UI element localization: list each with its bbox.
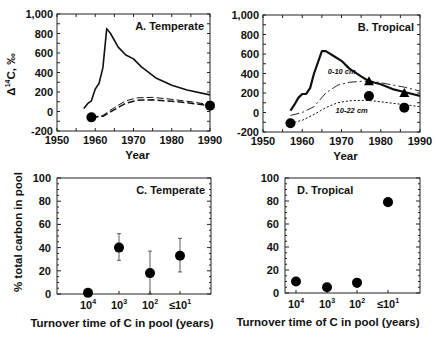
data-point: [114, 243, 124, 253]
x-tick-label: 104: [80, 298, 96, 311]
x-tick-label: 1960: [83, 134, 107, 146]
data-point: [352, 278, 362, 288]
x-tick-label: 1970: [329, 135, 353, 147]
data-point: [145, 268, 155, 278]
y-axis-title: % total carbon in pool: [12, 172, 24, 292]
y-tick-label: -200: [31, 125, 53, 137]
panel-title: A. Temperate: [135, 20, 204, 32]
data-point: [175, 251, 185, 261]
data-point: [83, 288, 93, 298]
x-tick-label: 1990: [198, 134, 222, 146]
data-point: [364, 91, 374, 101]
y-tick-label: 600: [241, 48, 259, 60]
y-tick-label: 40: [267, 241, 279, 253]
x-axis-title: Year: [333, 150, 358, 162]
x-tick-label: ≤101: [377, 297, 399, 310]
series-line: [84, 29, 210, 109]
panel-b: 195019601970198019901,0008006004002000-2…: [231, 9, 432, 162]
y-tick-label: 80: [39, 195, 51, 207]
data-point-triangle: [364, 76, 374, 85]
y-tick-label: 60: [39, 218, 51, 230]
panel-title: D. Tropical: [297, 184, 353, 196]
y-tick-label: 0: [47, 106, 53, 118]
y-tick-label: 60: [267, 218, 279, 230]
data-point: [285, 118, 295, 128]
y-tick-label: 800: [35, 28, 53, 40]
panel-d: 100806040200104103102≤101Turnover time o…: [236, 172, 420, 328]
x-tick-label: 103: [319, 297, 335, 310]
y-tick-label: 80: [267, 195, 279, 207]
y-tick-label: 40: [39, 242, 51, 254]
x-tick-label: 1970: [121, 134, 145, 146]
y-tick-label: 200: [35, 86, 53, 98]
x-axis-title: Turnover time of C in pool (years): [236, 316, 419, 328]
y-tick-label: 20: [39, 265, 51, 277]
y-tick-label: 600: [35, 47, 53, 59]
x-tick-label: 103: [111, 298, 127, 311]
data-point: [399, 103, 409, 113]
y-tick-label: 400: [35, 67, 53, 79]
y-tick-label: 0: [273, 287, 279, 299]
y-tick-label: 0: [253, 107, 259, 119]
y-tick-label: 1,000: [25, 8, 53, 20]
y-tick-label: 800: [241, 29, 259, 41]
panel-c: 100806040200104103102≤101Turnover time o…: [12, 172, 214, 329]
x-tick-label: 102: [349, 297, 365, 310]
panel-a: 195019601970198019901,0008006004002000-2…: [4, 8, 222, 161]
panel-title: C. Temperate: [136, 184, 205, 196]
y-tick-label: 100: [261, 172, 279, 184]
y-tick-label: 20: [267, 264, 279, 276]
x-tick-label: 1960: [290, 135, 314, 147]
x-tick-label: 1980: [369, 135, 393, 147]
series-line: [290, 51, 420, 110]
x-tick-label: 104: [288, 297, 304, 310]
y-tick-label: -200: [237, 126, 259, 138]
x-tick-label: ≤101: [169, 298, 191, 311]
figure-four-panel: 195019601970198019901,0008006004002000-2…: [0, 0, 436, 337]
panel-title: B. Tropical: [358, 21, 414, 33]
x-axis-title: Year: [125, 149, 150, 161]
y-tick-label: 100: [33, 172, 51, 184]
x-tick-label: 102: [142, 298, 158, 311]
y-tick-label: 1,000: [231, 9, 259, 21]
data-point: [383, 197, 393, 207]
y-tick-label: 0: [45, 288, 51, 300]
y-axis-title: Δ14C, ‰: [4, 53, 17, 96]
x-axis-title: Turnover time of C in pool (years): [30, 317, 213, 329]
data-point: [86, 112, 96, 122]
x-tick-label: 1980: [160, 134, 184, 146]
annotation-0-10cm: 0-10 cm: [328, 67, 356, 76]
data-point: [322, 282, 332, 292]
annotation-10-22cm: 10-22 cm: [336, 106, 368, 115]
data-point: [205, 101, 215, 111]
y-tick-label: 200: [241, 87, 259, 99]
x-tick-label: 1990: [408, 135, 432, 147]
data-point: [291, 277, 301, 287]
y-tick-label: 400: [241, 68, 259, 80]
